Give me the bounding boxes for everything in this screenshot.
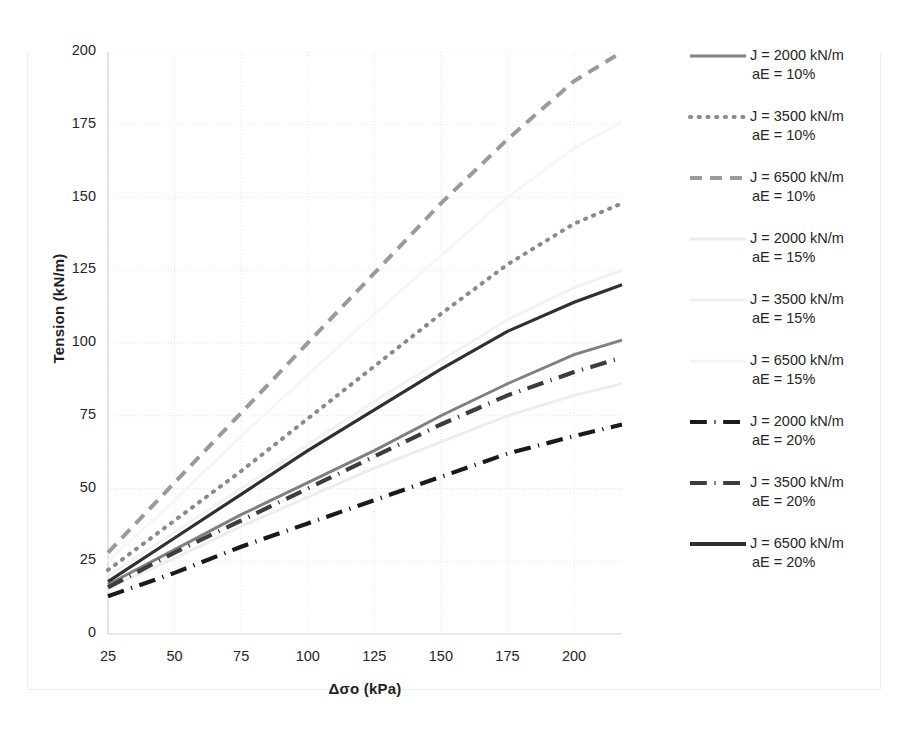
legend-label-line2: aE = 20% <box>750 492 844 511</box>
y-tick-label: 25 <box>50 551 96 567</box>
legend-line-swatch-icon <box>688 230 750 248</box>
legend-label: J = 2000 kN/maE = 10% <box>750 46 844 84</box>
legend-item[interactable]: J = 2000 kN/maE = 10% <box>688 46 894 92</box>
series-line <box>108 122 622 561</box>
series-line <box>108 203 622 570</box>
legend-label: J = 3500 kN/maE = 20% <box>750 473 844 511</box>
legend-label-line1: J = 2000 kN/m <box>750 413 844 429</box>
legend-line-swatch-icon <box>688 169 750 187</box>
legend-label-line1: J = 6500 kN/m <box>750 535 844 551</box>
x-tick-label: 175 <box>482 648 532 664</box>
x-tick-label: 25 <box>83 648 133 664</box>
legend-label-line1: J = 2000 kN/m <box>750 47 844 63</box>
legend-label-line1: J = 3500 kN/m <box>750 291 844 307</box>
legend-label: J = 3500 kN/maE = 10% <box>750 107 844 145</box>
legend-line-swatch-icon <box>688 413 750 431</box>
legend-line-swatch-icon <box>688 108 750 126</box>
chart-legend: J = 2000 kN/maE = 10%J = 3500 kN/maE = 1… <box>688 46 894 595</box>
data-series-group <box>108 52 622 596</box>
legend-label-line2: aE = 15% <box>750 370 844 389</box>
x-tick-label: 100 <box>283 648 333 664</box>
legend-label: J = 6500 kN/maE = 15% <box>750 351 844 389</box>
legend-line-swatch-icon <box>688 535 750 553</box>
legend-item[interactable]: J = 6500 kN/maE = 15% <box>688 351 894 397</box>
legend-label-line2: aE = 15% <box>750 248 844 267</box>
legend-item[interactable]: J = 3500 kN/maE = 15% <box>688 290 894 336</box>
legend-label: J = 2000 kN/maE = 20% <box>750 412 844 450</box>
legend-label: J = 2000 kN/maE = 15% <box>750 229 844 267</box>
y-tick-label: 0 <box>50 624 96 640</box>
legend-item[interactable]: J = 2000 kN/maE = 15% <box>688 229 894 275</box>
y-axis-title: Tension (kN/m) <box>50 209 67 409</box>
legend-label-line1: J = 6500 kN/m <box>750 169 844 185</box>
y-tick-label: 50 <box>50 479 96 495</box>
x-axis-title: Δσo (kPa) <box>110 680 620 697</box>
series-line <box>108 340 622 584</box>
legend-label: J = 6500 kN/maE = 10% <box>750 168 844 206</box>
legend-label: J = 6500 kN/maE = 20% <box>750 534 844 572</box>
legend-line-swatch-icon <box>688 47 750 65</box>
figure-root: 2001751501251007550250 25507510012515017… <box>0 0 908 737</box>
y-tick-label: 200 <box>50 42 96 58</box>
legend-label-line2: aE = 10% <box>750 65 844 84</box>
x-tick-label: 125 <box>349 648 399 664</box>
x-tick-label: 50 <box>150 648 200 664</box>
legend-label-line1: J = 3500 kN/m <box>750 108 844 124</box>
legend-line-swatch-icon <box>688 474 750 492</box>
legend-item[interactable]: J = 3500 kN/maE = 20% <box>688 473 894 519</box>
legend-label-line1: J = 6500 kN/m <box>750 352 844 368</box>
legend-item[interactable]: J = 6500 kN/maE = 10% <box>688 168 894 214</box>
y-tick-label: 150 <box>50 188 96 204</box>
legend-label-line2: aE = 10% <box>750 187 844 206</box>
x-tick-label: 75 <box>216 648 266 664</box>
legend-item[interactable]: J = 3500 kN/maE = 10% <box>688 107 894 153</box>
x-tick-label: 150 <box>416 648 466 664</box>
legend-label-line2: aE = 10% <box>750 126 844 145</box>
legend-line-swatch-icon <box>688 352 750 370</box>
legend-label-line2: aE = 20% <box>750 553 844 572</box>
legend-item[interactable]: J = 2000 kN/maE = 20% <box>688 412 894 458</box>
legend-label-line2: aE = 15% <box>750 309 844 328</box>
series-line <box>108 285 622 582</box>
grid-lines <box>108 52 622 634</box>
legend-label-line1: J = 2000 kN/m <box>750 230 844 246</box>
legend-label-line1: J = 3500 kN/m <box>750 474 844 490</box>
y-tick-label: 175 <box>50 115 96 131</box>
legend-item[interactable]: J = 6500 kN/maE = 20% <box>688 534 894 580</box>
legend-label: J = 3500 kN/maE = 15% <box>750 290 844 328</box>
x-tick-label: 200 <box>549 648 599 664</box>
legend-line-swatch-icon <box>688 291 750 309</box>
legend-label-line2: aE = 20% <box>750 431 844 450</box>
